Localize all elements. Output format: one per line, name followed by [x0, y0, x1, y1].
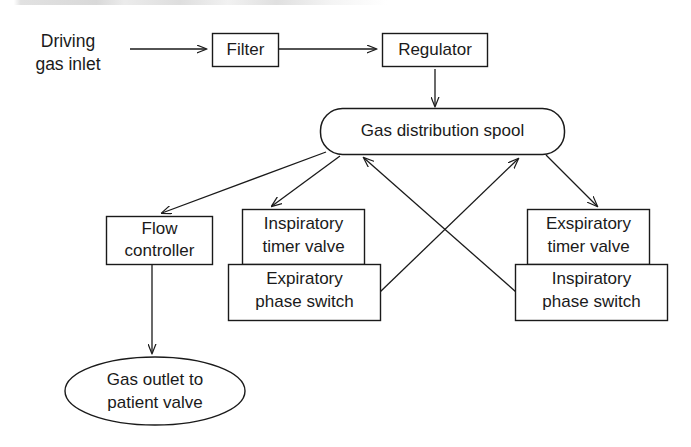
node-exspiratory-timer-valve[interactable]: Exspiratory timer valve — [528, 210, 650, 265]
inspiratory-phase-switch-label-line1: Inspiratory — [552, 269, 632, 288]
exspiratory-timer-valve-label-line1: Exspiratory — [546, 214, 632, 233]
expiratory-phase-switch-label-line2: phase switch — [255, 292, 353, 311]
node-flow-controller[interactable]: Flow controller — [107, 217, 213, 265]
regulator-label: Regulator — [398, 40, 472, 59]
edge-inspiratory-phase-switch-to-spool — [364, 158, 516, 292]
gas-outlet-label-line1: Gas outlet to — [107, 370, 203, 389]
flow-controller-label-line2: controller — [125, 241, 195, 260]
edge-spool-to-flow-controller — [162, 152, 326, 213]
diagram-canvas: Driving gas inlet Filter Regulator Gas d… — [0, 0, 691, 447]
flowchart-svg: Driving gas inlet Filter Regulator Gas d… — [0, 0, 691, 447]
node-driving-gas-inlet: Driving gas inlet — [35, 31, 100, 74]
node-regulator[interactable]: Regulator — [383, 34, 488, 67]
driving-gas-inlet-label-line1: Driving — [41, 31, 95, 51]
node-gas-outlet-to-patient-valve[interactable]: Gas outlet to patient valve — [65, 357, 245, 425]
edge-spool-to-inspiratory-timer-valve — [272, 156, 340, 206]
node-inspiratory-phase-switch[interactable]: Inspiratory phase switch — [516, 265, 668, 321]
flow-controller-label-line1: Flow — [142, 219, 179, 238]
inspiratory-phase-switch-label-line2: phase switch — [542, 292, 640, 311]
filter-label: Filter — [227, 40, 265, 59]
gas-distribution-spool-label: Gas distribution spool — [361, 121, 524, 140]
inspiratory-timer-valve-label-line1: Inspiratory — [264, 214, 344, 233]
node-inspiratory-timer-valve[interactable]: Inspiratory timer valve — [243, 210, 365, 265]
node-filter[interactable]: Filter — [213, 34, 279, 67]
node-gas-distribution-spool[interactable]: Gas distribution spool — [321, 109, 565, 155]
expiratory-phase-switch-label-line1: Expiratory — [266, 269, 343, 288]
edge-spool-to-exspiratory-timer-valve — [546, 155, 597, 206]
exspiratory-timer-valve-label-line2: timer valve — [547, 237, 629, 256]
gas-outlet-ellipse[interactable] — [65, 357, 245, 425]
driving-gas-inlet-label-line2: gas inlet — [35, 54, 100, 74]
inspiratory-timer-valve-label-line2: timer valve — [262, 237, 344, 256]
gas-outlet-label-line2: patient valve — [107, 393, 202, 412]
node-expiratory-phase-switch[interactable]: Expiratory phase switch — [229, 265, 381, 321]
edge-expiratory-phase-switch-to-spool — [380, 159, 518, 292]
